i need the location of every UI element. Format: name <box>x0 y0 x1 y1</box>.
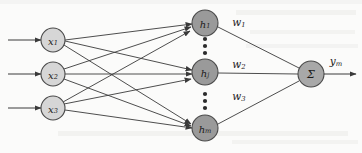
output-node-sum-label: Σ <box>306 68 315 81</box>
edge-x3-hj <box>64 79 191 104</box>
ellipsis-dot <box>203 99 207 103</box>
input-node-x3: x3 <box>41 96 65 120</box>
neural-network-svg: x1 x2 x3 h1 hj <box>0 0 362 153</box>
edge-x1-h1 <box>65 24 192 40</box>
input-node-x1: x1 <box>41 28 65 52</box>
hidden-to-output-edges <box>218 27 299 124</box>
weight-label-w1: w1 <box>232 16 245 29</box>
edge-hj-sum <box>218 73 298 74</box>
output-signal-label: ym <box>329 55 342 68</box>
input-node-x2: x2 <box>41 62 65 86</box>
ellipsis-dot <box>203 37 207 41</box>
weight-label-w2: w2 <box>232 58 245 71</box>
ellipsis-dot <box>203 92 207 96</box>
edge-hm-sum <box>218 81 299 124</box>
hidden-node-h1: h1 <box>192 10 218 36</box>
output-node-sum: Σ <box>298 61 324 87</box>
ellipsis-dot <box>203 106 207 110</box>
ellipsis-lower <box>203 92 207 110</box>
hidden-node-hm: hm <box>192 115 218 141</box>
ellipsis-dot <box>203 44 207 48</box>
ellipsis-dot <box>203 51 207 55</box>
hidden-node-hj: hj <box>192 59 218 85</box>
weight-label-w3: w3 <box>232 90 245 103</box>
input-arrows-group <box>8 40 41 108</box>
ellipsis-upper <box>203 37 207 55</box>
edge-x2-h1 <box>64 27 191 69</box>
input-to-hidden-edges <box>63 24 192 128</box>
neural-network-diagram: x1 x2 x3 h1 hj <box>0 0 362 153</box>
